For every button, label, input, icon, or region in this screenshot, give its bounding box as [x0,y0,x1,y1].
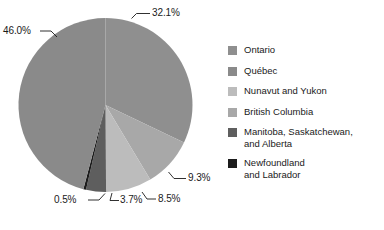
legend-item[interactable]: British Columbia [228,106,382,118]
legend-swatch-icon [228,87,237,96]
leader-line-ontario [132,14,151,19]
legend-swatch-icon [228,128,237,137]
legend-item-label: Manitoba, Saskatchewan, and Alberta [244,126,353,149]
legend-item[interactable]: Manitoba, Saskatchewan, and Alberta [228,126,382,149]
legend-item[interactable]: Newfoundland and Labrador [228,157,382,180]
leader-line-newfoundland [88,194,105,201]
leader-line-nunavut-yukon [142,192,156,199]
legend-item-label: Ontario [244,44,275,56]
legend-item[interactable]: Québec [228,65,382,77]
pie-chart-figure: 32.1% 46.0% 9.3% 8.5% 3.7% 0.5% OntarioQ… [0,0,384,230]
slice-label-manitoba: 3.7% [120,194,142,205]
slice-label-newfoundland: 0.5% [54,194,76,205]
chart-legend: OntarioQuébecNunavut and YukonBritish Co… [228,44,382,188]
legend-item[interactable]: Nunavut and Yukon [228,85,382,97]
legend-item-label: Nunavut and Yukon [244,85,327,97]
legend-item-label: British Columbia [244,106,313,118]
legend-swatch-icon [228,67,237,76]
slice-label-quebec: 46.0% [3,25,31,36]
legend-swatch-icon [228,159,237,168]
legend-item-label: Newfoundland and Labrador [244,157,305,180]
pie-slice-group [18,18,192,192]
legend-swatch-icon [228,108,237,117]
slice-label-nunavut-yukon: 8.5% [158,193,180,204]
legend-swatch-icon [228,46,237,55]
legend-item-label: Québec [244,65,277,77]
legend-item[interactable]: Ontario [228,44,382,56]
leader-line-manitoba [110,193,119,201]
slice-label-ontario: 32.1% [152,7,180,18]
slice-label-british-columbia: 9.3% [188,172,210,183]
leader-line-british-columbia [169,172,187,179]
